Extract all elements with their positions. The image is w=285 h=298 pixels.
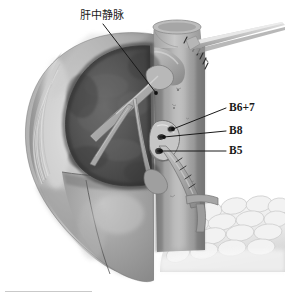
figure-container: 肝中静脉 B6+7 B8 B5	[0, 0, 285, 298]
label-b5: B5	[229, 145, 242, 157]
label-middle-hepatic-vein: 肝中静脉	[80, 10, 124, 21]
label-b8: B8	[229, 125, 242, 137]
label-b6-7: B6+7	[229, 102, 255, 114]
caption-separator-rule	[5, 291, 92, 292]
